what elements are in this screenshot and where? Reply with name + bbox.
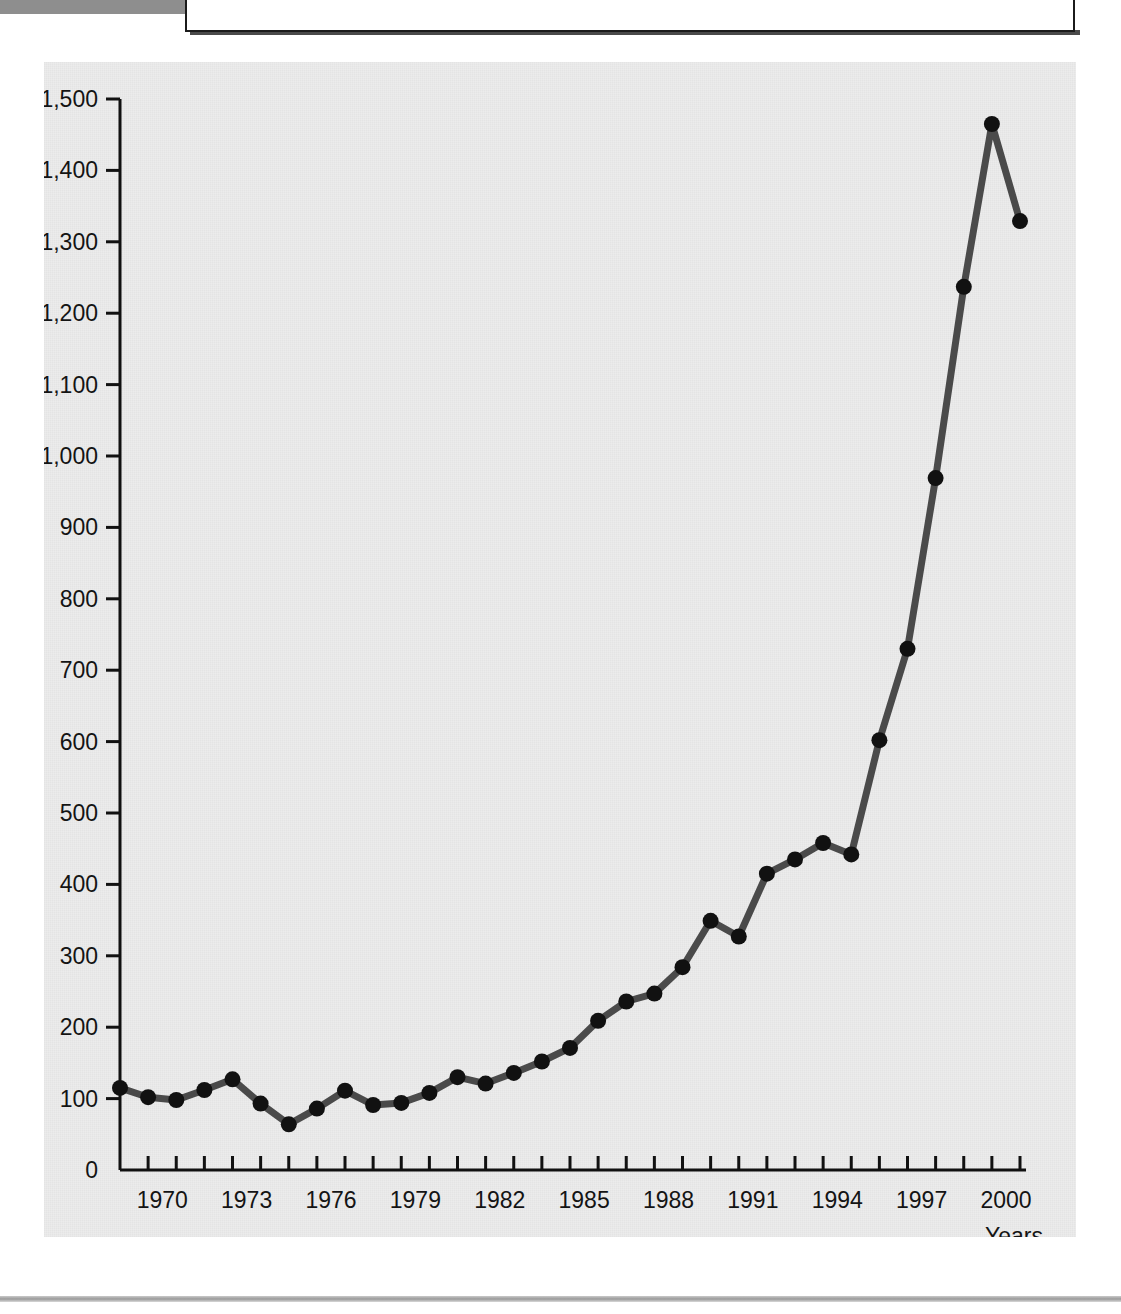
caption-box: Car accidents, 1968-2000 xyxy=(185,0,1075,32)
data-point xyxy=(759,866,775,882)
y-tick-label: 200 xyxy=(60,1014,98,1040)
data-point xyxy=(618,994,634,1010)
data-point xyxy=(928,470,944,486)
x-tick-label: 1976 xyxy=(305,1187,356,1213)
data-point xyxy=(956,279,972,295)
data-point xyxy=(506,1065,522,1081)
data-point xyxy=(196,1082,212,1098)
data-point xyxy=(140,1089,156,1105)
x-tick-label: 1991 xyxy=(727,1187,778,1213)
data-point xyxy=(984,116,1000,132)
y-tick-label: 1,300 xyxy=(44,229,98,255)
data-point xyxy=(1012,213,1028,229)
x-tick-label: 1982 xyxy=(474,1187,525,1213)
data-point xyxy=(731,929,747,945)
y-tick-label: 700 xyxy=(60,657,98,683)
y-tick-label: 100 xyxy=(60,1086,98,1112)
data-point xyxy=(450,1069,466,1085)
data-point xyxy=(309,1101,325,1117)
data-point xyxy=(590,1013,606,1029)
x-tick-label: 2000 xyxy=(980,1187,1031,1213)
y-tick-label: 900 xyxy=(60,514,98,540)
data-point xyxy=(646,986,662,1002)
y-tick-label: 1,500 xyxy=(44,86,98,112)
data-point xyxy=(253,1096,269,1112)
x-tick-label: 1985 xyxy=(559,1187,610,1213)
chart-panel: 01002003004005006007008009001,0001,1001,… xyxy=(44,62,1076,1237)
data-point xyxy=(112,1080,128,1096)
x-axis: 1970197319761979198219851988199119941997… xyxy=(120,1156,1032,1213)
data-point xyxy=(787,851,803,867)
data-point xyxy=(421,1085,437,1101)
data-point xyxy=(365,1097,381,1113)
data-point xyxy=(393,1095,409,1111)
x-tick-label: 1970 xyxy=(137,1187,188,1213)
x-axis-title: Years xyxy=(985,1223,1043,1237)
x-tick-label: 1979 xyxy=(390,1187,441,1213)
data-series xyxy=(112,116,1028,1132)
data-point xyxy=(843,846,859,862)
data-point xyxy=(562,1040,578,1056)
bottom-rule xyxy=(0,1296,1121,1302)
y-tick-label: 1,100 xyxy=(44,372,98,398)
data-point xyxy=(281,1116,297,1132)
y-tick-label: 600 xyxy=(60,729,98,755)
data-point xyxy=(900,641,916,657)
y-tick-label: 500 xyxy=(60,800,98,826)
x-tick-label: 1973 xyxy=(221,1187,272,1213)
data-point xyxy=(871,732,887,748)
x-tick-label: 1997 xyxy=(896,1187,947,1213)
y-tick-label: 1,200 xyxy=(44,300,98,326)
data-point xyxy=(168,1092,184,1108)
figure-number-tab: FIGURE 1.6 xyxy=(0,0,185,14)
y-tick-label: 400 xyxy=(60,871,98,897)
x-tick-label: 1988 xyxy=(643,1187,694,1213)
figure-header: FIGURE 1.6 Car accidents, 1968-2000 xyxy=(0,0,1121,44)
data-point xyxy=(225,1071,241,1087)
x-tick-label: 1994 xyxy=(812,1187,863,1213)
y-tick-label: 800 xyxy=(60,586,98,612)
y-axis: 01002003004005006007008009001,0001,1001,… xyxy=(44,86,120,1183)
data-point xyxy=(815,835,831,851)
data-point xyxy=(534,1054,550,1070)
y-tick-label: 0 xyxy=(85,1157,98,1183)
data-point xyxy=(337,1083,353,1099)
y-tick-label: 1,000 xyxy=(44,443,98,469)
data-point xyxy=(675,959,691,975)
y-tick-label: 300 xyxy=(60,943,98,969)
data-point xyxy=(478,1076,494,1092)
data-point xyxy=(703,913,719,929)
y-tick-label: 1,400 xyxy=(44,157,98,183)
line-chart: 01002003004005006007008009001,0001,1001,… xyxy=(44,62,1076,1237)
